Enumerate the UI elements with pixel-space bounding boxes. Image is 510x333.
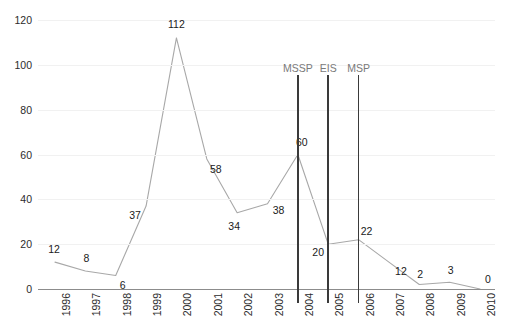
y-tick-label-80: 80 <box>20 104 32 116</box>
data-value-label: 12 <box>48 243 60 255</box>
x-tick-label-2006: 2006 <box>364 293 376 316</box>
x-tick-label-2007: 2007 <box>394 293 406 316</box>
chart-figure: 020406080100120 128637112583438602022122… <box>0 0 510 333</box>
y-tick-label-20: 20 <box>20 238 32 250</box>
data-value-label: 8 <box>83 252 89 264</box>
event-marker-line-eis <box>327 75 329 303</box>
data-value-label: 3 <box>448 264 454 276</box>
gridline-60 <box>38 155 495 156</box>
x-tick-label-2009: 2009 <box>455 293 467 316</box>
x-tick-label-2004: 2004 <box>303 293 315 316</box>
data-value-label: 38 <box>273 204 285 216</box>
x-tick-label-2003: 2003 <box>273 293 285 316</box>
y-axis: 020406080100120 <box>0 20 32 289</box>
x-tick-label-2002: 2002 <box>242 293 254 316</box>
event-marker-label-msp: MSP <box>347 62 370 74</box>
data-value-label: 0 <box>485 273 491 285</box>
x-tick-label-2000: 2000 <box>181 293 193 316</box>
data-value-label: 20 <box>312 246 324 258</box>
x-tick-label-2001: 2001 <box>212 293 224 316</box>
gridline-80 <box>38 110 495 111</box>
y-tick-label-40: 40 <box>20 193 32 205</box>
data-value-label: 22 <box>361 225 373 237</box>
event-marker-label-eis: EIS <box>320 62 337 74</box>
y-tick-label-60: 60 <box>20 149 32 161</box>
event-marker-label-mssp: MSSP <box>283 62 313 74</box>
x-tick-label-2010: 2010 <box>485 293 497 316</box>
gridline-20 <box>38 244 495 245</box>
plot-area: 12863711258343860202212230 <box>38 20 495 289</box>
x-tick-label-1998: 1998 <box>121 293 133 316</box>
data-value-label: 112 <box>168 18 185 30</box>
data-value-label: 37 <box>129 209 141 221</box>
gridline-120 <box>38 20 495 21</box>
data-value-label: 34 <box>228 220 240 232</box>
event-marker-line-mssp <box>297 75 299 303</box>
gridline-0 <box>38 289 495 290</box>
data-value-label: 58 <box>210 163 222 175</box>
x-axis: 1996199719981999200020012002200320042005… <box>0 293 510 333</box>
gridline-40 <box>38 199 495 200</box>
x-tick-label-2005: 2005 <box>333 293 345 316</box>
x-tick-label-2008: 2008 <box>424 293 436 316</box>
event-marker-line-msp <box>358 75 360 303</box>
x-tick-label-1997: 1997 <box>90 293 102 316</box>
y-tick-label-120: 120 <box>14 14 32 26</box>
x-tick-label-1999: 1999 <box>151 293 163 316</box>
data-value-label: 12 <box>395 265 407 277</box>
data-value-label: 6 <box>120 279 126 291</box>
data-value-label: 2 <box>417 268 423 280</box>
y-tick-label-100: 100 <box>14 59 32 71</box>
gridline-100 <box>38 65 495 66</box>
x-tick-label-1996: 1996 <box>60 293 72 316</box>
